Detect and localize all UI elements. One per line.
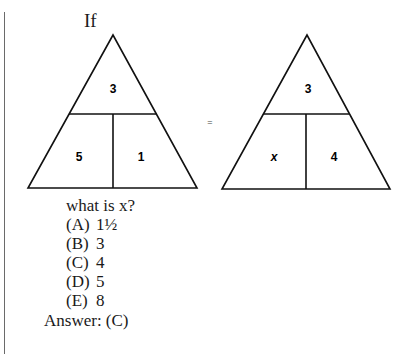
right-triangle (222, 35, 390, 189)
option-value: 5 (96, 272, 105, 291)
option-letter: (A) (66, 215, 96, 234)
option-letter: (B) (66, 234, 96, 253)
equals-sign: = (207, 117, 212, 127)
question-block: what is x? (A)1½ (B)3 (C)4 (D)5 (E)8 (66, 196, 135, 310)
option-e: (E)8 (66, 291, 135, 310)
option-value: 4 (96, 253, 105, 272)
option-value: 8 (96, 291, 105, 310)
option-value: 3 (96, 234, 105, 253)
answer-text: Answer: (C) (44, 311, 129, 331)
option-value: 1½ (96, 215, 117, 234)
option-a: (A)1½ (66, 215, 135, 234)
option-letter: (E) (66, 291, 96, 310)
triangle-figure: 3 5 1 = 3 x 4 (0, 0, 414, 200)
right-bottom-right-value: 4 (331, 150, 338, 164)
option-b: (B)3 (66, 234, 135, 253)
right-top-value: 3 (305, 82, 312, 96)
left-bottom-right-value: 1 (138, 150, 145, 164)
option-d: (D)5 (66, 272, 135, 291)
right-bottom-left-variable: x (270, 150, 279, 164)
left-triangle (28, 35, 197, 188)
option-letter: (D) (66, 272, 96, 291)
question-stem: what is x? (66, 196, 135, 215)
left-top-value: 3 (110, 82, 117, 96)
option-c: (C)4 (66, 253, 135, 272)
option-letter: (C) (66, 253, 96, 272)
left-bottom-left-value: 5 (76, 150, 83, 164)
